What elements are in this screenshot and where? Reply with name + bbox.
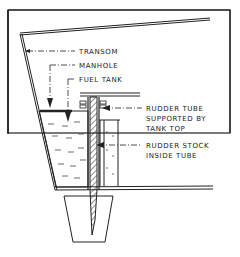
label-rudder-tube-line3: TANK TOP — [145, 125, 185, 133]
label-transom: TRANSOM — [78, 48, 118, 56]
fuel-tank — [39, 111, 120, 187]
rudder-skeg — [64, 196, 113, 242]
deck-line — [20, 18, 210, 35]
leader-rudder-stock — [96, 142, 142, 148]
leader-transom — [25, 49, 75, 53]
label-rudder-stock-line1: RUDDER STOCK — [146, 142, 209, 150]
label-rudder-stock-line2: INSIDE TUBE — [146, 152, 197, 160]
rudder-stock — [90, 97, 97, 235]
label-fuel-tank: FUEL TANK — [79, 76, 122, 84]
leader-manhole — [47, 65, 75, 108]
leader-rudder-tube — [102, 105, 142, 111]
rudder-tube-diagram: TRANSOM MANHOLE FUEL TANK RUDDER TUBE SU… — [0, 0, 240, 257]
label-manhole: MANHOLE — [79, 62, 118, 70]
leader-fuel-tank — [65, 79, 76, 122]
label-rudder-tube-line2: SUPPORTED BY — [146, 115, 206, 123]
label-rudder-tube-line1: RUDDER TUBE — [146, 105, 204, 113]
